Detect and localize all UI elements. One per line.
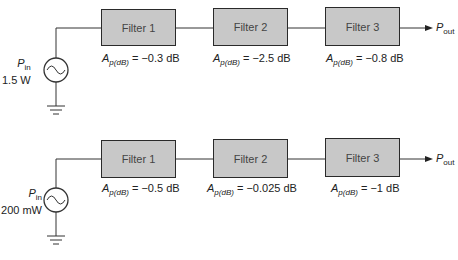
filter-3-box: Filter 3 bbox=[325, 7, 400, 46]
pin-symbol: P bbox=[28, 187, 35, 199]
pin-subscript: in bbox=[36, 193, 42, 202]
pin-symbol: P bbox=[17, 57, 24, 69]
gain-label-1-1: Ap(dB) = −0.3 dB bbox=[102, 52, 180, 67]
filter-3-box: Filter 3 bbox=[325, 138, 400, 177]
filter-2-box: Filter 2 bbox=[213, 139, 288, 178]
input-wire-2 bbox=[56, 159, 101, 188]
filter-label: Filter 1 bbox=[122, 22, 156, 34]
filter-1-box: Filter 1 bbox=[101, 9, 176, 46]
filter-1-box: Filter 1 bbox=[101, 140, 176, 178]
input-wire-1 bbox=[56, 28, 101, 58]
filter-label: Filter 2 bbox=[234, 21, 268, 33]
pin-label-1: Pin 1.5 W bbox=[2, 57, 31, 86]
pout-label-1: Pout bbox=[436, 21, 454, 36]
sine-icon bbox=[47, 196, 65, 204]
filter-label: Filter 2 bbox=[234, 153, 268, 165]
gain-label-2-2: Ap(dB) = −0.025 dB bbox=[207, 182, 297, 197]
filter-label: Filter 3 bbox=[346, 152, 380, 164]
sine-icon bbox=[47, 66, 65, 74]
filter-label: Filter 1 bbox=[122, 153, 156, 165]
pin-value: 1.5 W bbox=[2, 74, 31, 86]
pout-label-2: Pout bbox=[436, 152, 454, 167]
filter-label: Filter 3 bbox=[346, 21, 380, 33]
gain-label-1-2: Ap(dB) = −2.5 dB bbox=[213, 52, 291, 67]
pin-value: 200 mW bbox=[0, 204, 42, 216]
gain-label-2-1: Ap(dB) = −0.5 dB bbox=[102, 182, 180, 197]
pin-label-2: Pin 200 mW bbox=[0, 187, 42, 216]
pin-subscript: in bbox=[25, 63, 31, 72]
arrow-icon bbox=[425, 25, 433, 31]
gain-label-1-3: Ap(dB) = −0.8 dB bbox=[326, 52, 404, 67]
gain-label-2-3: Ap(dB) = −1 dB bbox=[331, 182, 400, 197]
arrow-icon bbox=[425, 156, 433, 162]
filter-2-box: Filter 2 bbox=[213, 8, 288, 46]
